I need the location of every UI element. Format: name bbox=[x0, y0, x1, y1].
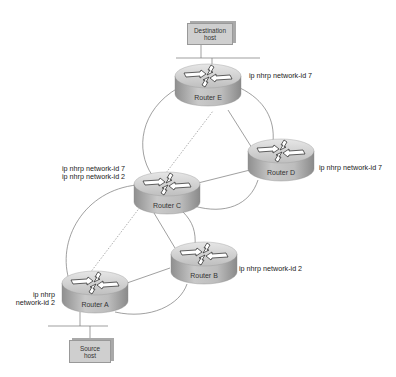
router-e-config: ip nhrp network-id 7 bbox=[249, 72, 312, 80]
router-b-label: Router B bbox=[174, 272, 234, 279]
router-c-label: Router C bbox=[137, 202, 197, 209]
source-host: Source host bbox=[69, 340, 111, 363]
router-d-config: ip nhrp network-id 7 bbox=[319, 164, 382, 172]
destination-host-line2: host bbox=[194, 34, 226, 41]
network-diagram bbox=[0, 0, 396, 377]
router-c-config-2: ip nhrp network-id 2 bbox=[62, 173, 125, 181]
source-host-line2: host bbox=[80, 352, 100, 359]
destination-host-line1: Destination bbox=[194, 27, 226, 34]
router-a-config-2: network-id 2 bbox=[8, 299, 55, 307]
router-d-label: Router D bbox=[251, 169, 311, 176]
router-a-label: Router A bbox=[65, 301, 125, 308]
router-b-config: ip nhrp network-id 2 bbox=[239, 265, 302, 273]
destination-host: Destination host bbox=[187, 23, 233, 45]
source-host-line1: Source bbox=[80, 345, 100, 352]
router-e-label: Router E bbox=[178, 94, 238, 101]
